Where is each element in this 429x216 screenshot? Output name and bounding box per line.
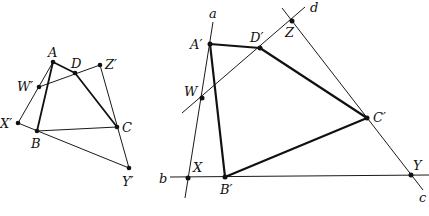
point-a — [51, 60, 56, 65]
label-x-prime: X′ — [0, 116, 12, 131]
label-w: W — [184, 84, 199, 99]
label-line-d: d — [310, 0, 318, 15]
segment-yprime-zprime — [100, 65, 129, 168]
quadrilateral-a-d-c-b-prime — [210, 44, 367, 177]
point-b — [35, 129, 40, 134]
label-c-prime: C′ — [373, 110, 386, 125]
line-b — [170, 175, 429, 177]
label-y: Y — [413, 158, 423, 173]
label-line-c: c — [419, 190, 427, 205]
label-w-prime: W′ — [17, 79, 33, 94]
point-z — [290, 19, 295, 24]
label-d-prime: D′ — [249, 30, 263, 45]
label-d: D — [70, 56, 82, 71]
point-a-prime — [208, 42, 213, 47]
point-y — [409, 173, 414, 178]
right-figure: A′ D′ Z W X B′ C′ Y a b c d — [159, 0, 429, 205]
label-z: Z — [284, 25, 295, 40]
point-c — [115, 125, 120, 130]
label-line-a: a — [209, 6, 217, 21]
label-c: C — [122, 120, 132, 135]
projective-quadrilateral-diagram: A D Z′ W′ X′ B C Y′ A′ D′ Z W X B′ C′ — [0, 0, 429, 216]
point-z-prime — [98, 63, 103, 68]
point-d — [73, 71, 78, 76]
label-a-prime: A′ — [189, 37, 202, 52]
label-x: X — [192, 160, 203, 175]
point-d-prime — [258, 46, 263, 51]
label-y-prime: Y′ — [122, 174, 134, 189]
point-w — [200, 96, 205, 101]
label-b-prime: B′ — [219, 182, 233, 197]
label-z-prime: Z′ — [104, 57, 117, 72]
label-a: A — [47, 45, 57, 60]
label-line-b: b — [159, 171, 167, 186]
point-b-prime — [223, 175, 228, 180]
point-y-prime — [127, 166, 132, 171]
segment-b-c — [37, 127, 117, 131]
left-figure: A D Z′ W′ X′ B C Y′ — [0, 45, 134, 189]
point-x-prime — [16, 121, 21, 126]
label-b: B — [30, 136, 41, 151]
point-x — [186, 176, 191, 181]
point-w-prime — [37, 85, 42, 90]
point-c-prime — [365, 116, 370, 121]
line-c — [282, 8, 423, 190]
